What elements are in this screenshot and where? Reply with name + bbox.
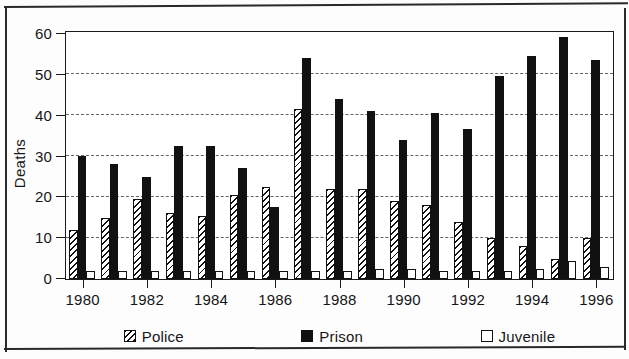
x-axis-tick-label: 1982 <box>130 291 164 308</box>
y-axis-tick-label: 40 <box>35 107 52 122</box>
bar-juvenile-1988 <box>343 271 352 279</box>
x-axis-tick-mark <box>211 280 212 288</box>
chart-legend: PolicePrisonJuvenile <box>65 325 614 347</box>
y-axis-tick-mark <box>56 196 65 197</box>
x-axis-tick-mark <box>532 280 533 288</box>
x-axis-tick-label: 1990 <box>387 291 421 308</box>
bar-group-1992 <box>454 32 480 279</box>
bar-juvenile-1993 <box>504 271 513 279</box>
bar-prison-1987 <box>302 58 311 279</box>
bar-police-1995 <box>551 259 560 279</box>
x-axis-tick-mark <box>404 280 405 288</box>
y-axis-tick-mark <box>56 237 65 238</box>
x-axis-tick-label: 1992 <box>451 291 485 308</box>
bar-prison-1994 <box>527 56 536 279</box>
bar-juvenile-1986 <box>279 271 288 279</box>
y-axis: Deaths 0102030405060 <box>0 31 65 280</box>
y-axis-tick-label: 10 <box>35 230 52 245</box>
y-axis-tick-label: 20 <box>35 189 52 204</box>
legend-item-juvenile[interactable]: Juvenile <box>481 328 556 345</box>
bar-group-1988 <box>326 32 352 279</box>
bar-police-1987 <box>294 109 303 279</box>
bar-group-1995 <box>551 32 577 279</box>
bar-police-1981 <box>101 218 110 279</box>
y-axis-tick-label: 50 <box>35 66 52 81</box>
bar-group-1996 <box>583 32 609 279</box>
x-axis-tick-mark <box>596 280 597 288</box>
y-axis-tick-label: 0 <box>43 271 52 286</box>
bar-prison-1985 <box>238 168 247 279</box>
legend-swatch-police-icon <box>124 330 136 342</box>
bar-group-1990 <box>390 32 416 279</box>
x-axis-tick-label: 1986 <box>258 291 292 308</box>
bar-prison-1981 <box>110 164 119 279</box>
page-border-top <box>4 2 628 8</box>
bar-group-1982 <box>133 32 159 279</box>
bar-juvenile-1987 <box>311 271 320 279</box>
legend-label: Prison <box>319 328 363 345</box>
bar-group-1985 <box>230 32 256 279</box>
bar-juvenile-1990 <box>407 269 416 279</box>
bar-prison-1990 <box>399 140 408 279</box>
x-axis-tick-mark <box>468 280 469 288</box>
bar-group-1994 <box>519 32 545 279</box>
legend-swatch-prison-icon <box>301 330 313 342</box>
bar-prison-1996 <box>591 60 600 279</box>
bar-prison-1991 <box>431 113 440 279</box>
bar-juvenile-1985 <box>247 271 256 279</box>
x-axis-tick-label: 1988 <box>322 291 356 308</box>
bar-juvenile-1984 <box>215 271 224 279</box>
bar-group-1980 <box>69 32 95 279</box>
x-axis-tick-label: 1980 <box>66 291 100 308</box>
bar-prison-1988 <box>335 99 344 279</box>
bar-group-1981 <box>101 32 127 279</box>
bar-prison-1992 <box>463 129 472 279</box>
bar-prison-1980 <box>78 156 87 279</box>
bar-juvenile-1983 <box>183 271 192 279</box>
y-axis-tick-mark <box>56 278 65 279</box>
legend-label: Juvenile <box>499 328 556 345</box>
bar-group-1983 <box>166 32 192 279</box>
bar-prison-1983 <box>174 146 183 279</box>
bar-police-1988 <box>326 189 335 279</box>
bar-group-1984 <box>198 32 224 279</box>
legend-item-police[interactable]: Police <box>124 328 184 345</box>
y-axis-tick-label: 30 <box>35 148 52 163</box>
bar-group-1993 <box>487 32 513 279</box>
bar-police-1992 <box>454 222 463 279</box>
x-axis-tick-mark <box>147 280 148 288</box>
legend-item-prison[interactable]: Prison <box>301 328 363 345</box>
plot-area <box>65 31 614 280</box>
bar-juvenile-1991 <box>439 271 448 279</box>
bar-prison-1986 <box>270 207 279 279</box>
bar-police-1986 <box>262 187 271 279</box>
bar-juvenile-1992 <box>472 271 481 279</box>
bar-juvenile-1994 <box>536 269 545 279</box>
bar-police-1990 <box>390 201 399 279</box>
legend-swatch-juvenile-icon <box>481 330 493 342</box>
x-axis-tick-mark <box>83 280 84 288</box>
legend-label: Police <box>142 328 184 345</box>
bar-police-1989 <box>358 189 367 279</box>
bar-police-1993 <box>487 238 496 279</box>
x-axis-tick-mark <box>340 280 341 288</box>
bar-police-1994 <box>519 246 528 279</box>
bar-police-1980 <box>69 230 78 279</box>
y-axis-title: Deaths <box>11 119 28 209</box>
bar-group-1986 <box>262 32 288 279</box>
bar-police-1984 <box>198 216 207 279</box>
bar-juvenile-1982 <box>151 271 160 279</box>
y-axis-tick-label: 60 <box>35 25 52 40</box>
bar-police-1983 <box>166 213 175 279</box>
page-border-right <box>624 8 626 350</box>
bar-police-1991 <box>422 205 431 279</box>
x-axis-tick-label: 1996 <box>579 291 613 308</box>
y-axis-tick-mark <box>56 156 65 157</box>
x-axis-tick-label: 1994 <box>515 291 549 308</box>
bar-prison-1989 <box>367 111 376 279</box>
bar-juvenile-1981 <box>118 271 127 279</box>
bar-group-1989 <box>358 32 384 279</box>
x-axis: 198019821984198619881990199219941996 <box>65 280 614 316</box>
plot-inner <box>66 32 613 279</box>
bar-police-1985 <box>230 195 239 279</box>
